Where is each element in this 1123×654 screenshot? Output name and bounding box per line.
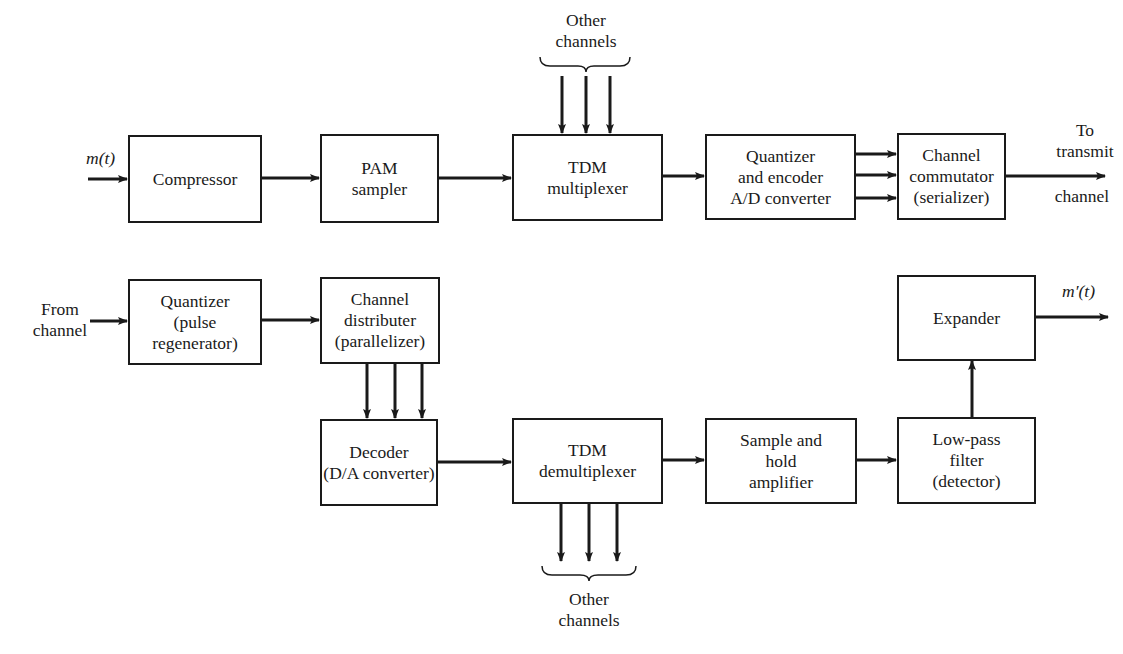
expander-block: Expander	[897, 275, 1036, 361]
compressor-block: Compressor	[128, 135, 262, 223]
block-label: filter	[949, 450, 983, 471]
block-label: (pulse	[174, 312, 217, 333]
block-label: TDM	[568, 440, 607, 461]
input-signal-label: m(t)	[86, 148, 115, 169]
other-channels-label-bottom: Other channels	[558, 589, 620, 631]
block-label: (serializer)	[914, 187, 990, 208]
block-label: sampler	[352, 179, 407, 200]
from-channel-label: From channel	[28, 299, 92, 341]
block-label: (D/A converter)	[323, 463, 434, 484]
block-label: and encoder	[738, 167, 823, 188]
block-label: (detector)	[932, 471, 1000, 492]
block-label: PAM	[361, 158, 397, 179]
other-channels-label-top: Other channels	[555, 10, 617, 52]
decoder-block: Decoder (D/A converter)	[320, 419, 438, 506]
block-label: Expander	[933, 308, 1000, 329]
block-label: commutator	[909, 166, 994, 187]
block-label: A/D converter	[730, 188, 831, 209]
block-label: amplifier	[749, 472, 813, 493]
block-label: Compressor	[153, 169, 238, 190]
brace-bottom	[542, 566, 636, 581]
output-transmit-top-label: To transmit	[1050, 120, 1120, 162]
tdm-multiplexer-block: TDM multiplexer	[512, 134, 663, 221]
block-label: Quantizer	[746, 146, 815, 167]
block-label: Sample and	[740, 430, 822, 451]
brace-top	[540, 57, 630, 72]
low-pass-filter-block: Low-pass filter (detector)	[897, 417, 1036, 504]
pcm-tdm-block-diagram: m(t) Compressor PAM sampler TDM multiple…	[0, 0, 1123, 654]
quantizer-regenerator-block: Quantizer (pulse regenerator)	[128, 279, 262, 365]
block-label: Low-pass	[932, 429, 1000, 450]
block-label: hold	[765, 451, 796, 472]
block-label: regenerator)	[152, 333, 238, 354]
block-label: distributer	[344, 310, 416, 331]
block-label: (parallelizer)	[335, 331, 425, 352]
block-label: Channel	[922, 145, 980, 166]
tdm-demultiplexer-block: TDM demultiplexer	[512, 418, 663, 504]
block-label: Quantizer	[161, 291, 230, 312]
block-label: multiplexer	[547, 178, 628, 199]
channel-distributer-block: Channel distributer (parallelizer)	[320, 277, 440, 364]
sample-hold-block: Sample and hold amplifier	[705, 418, 857, 504]
channel-commutator-block: Channel commutator (serializer)	[897, 133, 1006, 220]
pam-sampler-block: PAM sampler	[320, 134, 439, 223]
block-label: TDM	[568, 157, 607, 178]
block-label: Channel	[351, 289, 409, 310]
block-label: demultiplexer	[539, 461, 636, 482]
output-signal-label: m′(t)	[1062, 281, 1095, 302]
block-label: Decoder	[349, 442, 408, 463]
output-transmit-bottom-label: channel	[1042, 186, 1122, 207]
quantizer-encoder-block: Quantizer and encoder A/D converter	[705, 134, 856, 220]
